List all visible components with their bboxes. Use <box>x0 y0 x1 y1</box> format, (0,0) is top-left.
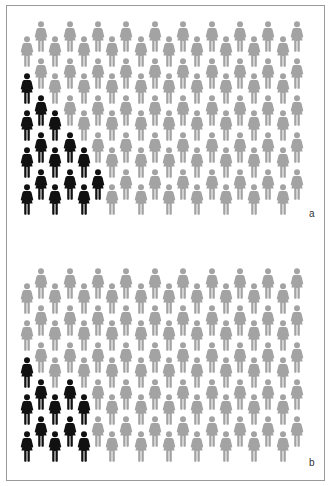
female-person-icon <box>20 184 34 215</box>
female-person-icon <box>290 95 304 126</box>
female-person-icon <box>20 36 34 67</box>
female-person-icon <box>162 283 176 314</box>
female-person-icon <box>162 357 176 388</box>
female-person-icon <box>48 357 62 388</box>
female-person-icon <box>105 394 119 425</box>
female-person-icon <box>63 21 77 52</box>
female-person-icon <box>77 394 91 425</box>
female-person-icon <box>148 379 162 410</box>
female-person-icon <box>261 132 275 163</box>
female-person-icon <box>290 58 304 89</box>
female-person-icon <box>148 95 162 126</box>
female-person-icon <box>190 36 204 67</box>
female-person-icon <box>34 268 48 299</box>
female-person-icon <box>290 268 304 299</box>
female-person-icon <box>34 169 48 200</box>
female-person-icon <box>48 431 62 462</box>
female-person-icon <box>219 36 233 67</box>
female-person-icon <box>233 305 247 336</box>
female-person-icon <box>91 268 105 299</box>
female-person-icon <box>134 431 148 462</box>
female-person-icon <box>247 357 261 388</box>
female-person-icon <box>34 132 48 163</box>
female-person-icon <box>119 342 133 373</box>
female-person-icon <box>119 416 133 447</box>
female-person-icon <box>63 132 77 163</box>
female-person-icon <box>261 95 275 126</box>
female-person-icon <box>219 184 233 215</box>
female-person-icon <box>119 132 133 163</box>
female-person-icon <box>247 283 261 314</box>
panel-b: b <box>0 247 332 486</box>
female-person-icon <box>261 305 275 336</box>
female-person-icon <box>276 110 290 141</box>
female-person-icon <box>176 268 190 299</box>
female-person-icon <box>105 320 119 351</box>
female-person-icon <box>233 169 247 200</box>
female-person-icon <box>261 169 275 200</box>
female-person-icon <box>63 416 77 447</box>
female-person-icon <box>233 342 247 373</box>
panel-a: a <box>0 0 332 243</box>
female-person-icon <box>276 394 290 425</box>
female-person-icon <box>48 320 62 351</box>
female-person-icon <box>247 394 261 425</box>
female-person-icon <box>91 58 105 89</box>
female-person-icon <box>105 184 119 215</box>
female-person-icon <box>91 95 105 126</box>
female-person-icon <box>134 36 148 67</box>
female-person-icon <box>134 110 148 141</box>
female-person-icon <box>91 132 105 163</box>
female-person-icon <box>148 268 162 299</box>
female-person-icon <box>190 283 204 314</box>
female-person-icon <box>176 95 190 126</box>
female-person-icon <box>276 357 290 388</box>
female-person-icon <box>63 268 77 299</box>
female-person-icon <box>233 268 247 299</box>
female-person-icon <box>148 21 162 52</box>
female-person-icon <box>276 431 290 462</box>
female-person-icon <box>134 73 148 104</box>
female-person-icon <box>205 58 219 89</box>
female-person-icon <box>119 379 133 410</box>
female-person-icon <box>233 95 247 126</box>
female-person-icon <box>219 73 233 104</box>
female-person-icon <box>105 431 119 462</box>
female-person-icon <box>233 132 247 163</box>
female-person-icon <box>176 132 190 163</box>
female-person-icon <box>48 36 62 67</box>
female-person-icon <box>176 21 190 52</box>
female-person-icon <box>290 169 304 200</box>
female-person-icon <box>20 357 34 388</box>
female-person-icon <box>119 58 133 89</box>
female-person-icon <box>162 36 176 67</box>
female-person-icon <box>48 283 62 314</box>
female-person-icon <box>34 416 48 447</box>
female-person-icon <box>105 36 119 67</box>
female-person-icon <box>148 132 162 163</box>
female-person-icon <box>290 21 304 52</box>
female-person-icon <box>34 305 48 336</box>
female-person-icon <box>162 320 176 351</box>
female-person-icon <box>91 379 105 410</box>
female-person-icon <box>261 268 275 299</box>
female-person-icon <box>48 394 62 425</box>
female-person-icon <box>119 21 133 52</box>
female-person-icon <box>276 184 290 215</box>
female-person-icon <box>148 305 162 336</box>
female-person-icon <box>134 394 148 425</box>
female-person-icon <box>190 394 204 425</box>
female-person-icon <box>20 147 34 178</box>
female-person-icon <box>105 110 119 141</box>
female-person-icon <box>77 357 91 388</box>
female-person-icon <box>276 320 290 351</box>
female-person-icon <box>205 21 219 52</box>
female-person-icon <box>247 147 261 178</box>
female-person-icon <box>261 342 275 373</box>
female-person-icon <box>233 58 247 89</box>
female-person-icon <box>190 357 204 388</box>
female-person-icon <box>162 184 176 215</box>
female-person-icon <box>77 184 91 215</box>
female-person-icon <box>91 342 105 373</box>
female-person-icon <box>190 110 204 141</box>
